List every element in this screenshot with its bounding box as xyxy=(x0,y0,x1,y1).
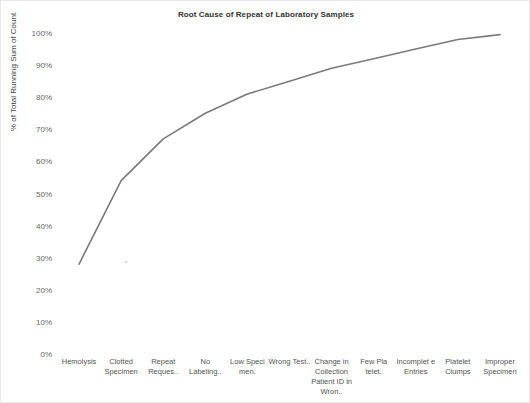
x-axis-tick-label: Wrong Test.. xyxy=(268,357,312,367)
y-axis-tick-label: 40% xyxy=(12,221,52,230)
y-axis-tick-label: 90% xyxy=(12,61,52,70)
y-axis-tick-label: 0% xyxy=(12,350,52,359)
x-axis-tick-label: Low Speci men. xyxy=(225,357,269,377)
y-axis-tick-label: 20% xyxy=(12,285,52,294)
x-axis-ticks: HemolysisClotted SpecimenRepeat Reques..… xyxy=(58,357,521,403)
plot-area: 0%10%20%30%40%50%60%70%80%90%100% xyxy=(58,33,521,354)
y-axis-tick-label: 70% xyxy=(12,125,52,134)
x-axis-tick-label: Hemolysis xyxy=(57,357,101,367)
y-axis-tick-label: 30% xyxy=(12,253,52,262)
x-axis-tick-label: Few Pla telet. xyxy=(352,357,396,377)
x-axis-tick-label: Platelet Clumps xyxy=(436,357,480,377)
y-axis-tick-label: 80% xyxy=(12,93,52,102)
x-axis-tick-label: Change in Collection Patient ID in Wron.… xyxy=(310,357,354,397)
y-axis-tick-label: 10% xyxy=(12,317,52,326)
x-axis-tick-label: Improper Specimen xyxy=(478,357,522,377)
chart-container: Root Cause of Repeat of Laboratory Sampl… xyxy=(0,0,530,403)
series-line xyxy=(79,35,500,265)
y-axis-tick-label: 60% xyxy=(12,157,52,166)
x-axis-tick-label: Incomplet e Entries xyxy=(394,357,438,377)
chart-title: Root Cause of Repeat of Laboratory Sampl… xyxy=(1,10,530,19)
stray-marker xyxy=(125,261,127,263)
pareto-line-series xyxy=(58,33,521,354)
x-axis-tick-label: No Labeling.. xyxy=(183,357,227,377)
x-axis-tick-label: Clotted Specimen xyxy=(99,357,143,377)
y-axis-tick-label: 50% xyxy=(12,189,52,198)
y-axis-tick-label: 100% xyxy=(12,29,52,38)
x-axis-tick-label: Repeat Reques.. xyxy=(141,357,185,377)
